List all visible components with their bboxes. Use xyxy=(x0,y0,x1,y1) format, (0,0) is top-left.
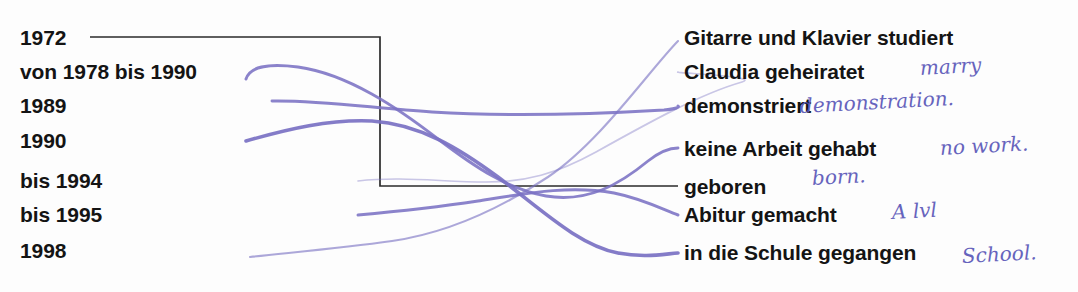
annotation-a-lvl: A lvl xyxy=(891,200,937,222)
right-item-claudia-geheiratet[interactable]: Claudia geheiratet xyxy=(684,61,864,82)
connector-bis1995-abitur[interactable] xyxy=(358,190,678,215)
left-item-1972[interactable]: 1972 xyxy=(20,27,66,48)
connector-bis1994-claudia[interactable] xyxy=(358,72,745,182)
annotation-school: School. xyxy=(961,242,1037,266)
connector-1989-demonstriert[interactable] xyxy=(272,101,678,115)
right-item-geboren[interactable]: geboren xyxy=(684,176,766,197)
right-item-gitarre-klavier-studiert[interactable]: Gitarre und Klavier studiert xyxy=(684,27,953,48)
left-item-bis-1995[interactable]: bis 1995 xyxy=(20,204,102,225)
right-item-keine-arbeit-gehabt[interactable]: keine Arbeit gehabt xyxy=(684,138,876,159)
right-item-abitur-gemacht[interactable]: Abitur gemacht xyxy=(684,204,837,225)
left-item-1998[interactable]: 1998 xyxy=(20,240,66,261)
connector-1990-schule[interactable] xyxy=(246,121,678,256)
annotation-demonstration: demonstration. xyxy=(799,88,954,116)
left-item-bis-1994[interactable]: bis 1994 xyxy=(20,170,102,191)
connector-von1978bis1990-keine-arbeit[interactable] xyxy=(246,66,678,198)
left-item-1990[interactable]: 1990 xyxy=(20,130,66,151)
annotation-marry: marry xyxy=(919,55,981,78)
left-item-1989[interactable]: 1989 xyxy=(20,95,66,116)
right-item-demonstriert[interactable]: demonstriert xyxy=(684,95,811,116)
worksheet-sheet: 1972 von 1978 bis 1990 1989 1990 bis 199… xyxy=(0,0,1078,292)
left-item-von-1978-bis-1990[interactable]: von 1978 bis 1990 xyxy=(20,61,197,82)
annotation-born: born. xyxy=(811,165,866,188)
connector-1998-gitarre[interactable] xyxy=(250,41,678,257)
right-item-in-die-schule-gegangen[interactable]: in die Schule gegangen xyxy=(684,242,916,263)
annotation-no-work: no work. xyxy=(939,133,1028,158)
